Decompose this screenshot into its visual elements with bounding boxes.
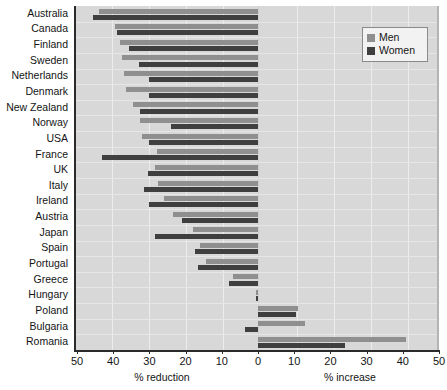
bar-women [149, 93, 258, 98]
bar-men [193, 227, 258, 232]
y-axis-label: Greece [34, 274, 68, 285]
bar-men [258, 337, 406, 342]
bar-men [126, 87, 258, 92]
x-tick-label: 50 [64, 355, 90, 367]
bar-women [139, 62, 258, 67]
x-tick-mark [330, 350, 331, 354]
x-tick-mark [403, 350, 404, 354]
x-tick-label: 20 [317, 355, 343, 367]
bar-women [149, 77, 258, 82]
x-tick-mark [77, 350, 78, 354]
bar-women [229, 281, 258, 286]
bar-women [148, 171, 258, 176]
bar-men [173, 212, 258, 217]
y-axis-label: Poland [35, 305, 68, 316]
y-axis-label: Norway [32, 117, 68, 128]
x-tick-label: 10 [281, 355, 307, 367]
y-axis-label: Canada [31, 23, 68, 34]
bar-women [155, 234, 258, 239]
x-tick-mark [222, 350, 223, 354]
gridline-row [76, 22, 437, 23]
x-axis-line [74, 350, 439, 352]
y-axis-label: Hungary [28, 289, 68, 300]
bar-men [115, 24, 258, 29]
y-axis-line [74, 6, 76, 352]
bar-women [198, 265, 258, 270]
bar-men [120, 40, 258, 45]
bar-men [158, 181, 258, 186]
y-axis-label: UK [53, 164, 68, 175]
x-tick-label: 50 [426, 355, 447, 367]
gridline-row [76, 319, 437, 320]
x-tick-label: 10 [209, 355, 235, 367]
bar-men [140, 118, 258, 123]
legend-item-men: Men [367, 31, 423, 44]
legend-swatch-women [367, 47, 375, 55]
y-axis-label: Austria [35, 211, 68, 222]
x-axis-title-increase: % increase [290, 371, 410, 383]
bar-women [102, 155, 258, 160]
bar-women [149, 140, 258, 145]
bar-women [182, 218, 258, 223]
gridline-row [76, 334, 437, 335]
bar-men [258, 306, 298, 311]
gridline-row [76, 147, 437, 148]
bar-women [144, 187, 258, 192]
gridline-row [76, 115, 437, 116]
gridline-row [76, 69, 437, 70]
bar-women [117, 30, 258, 35]
bar-women [258, 312, 296, 317]
x-tick-label: 0 [245, 355, 271, 367]
gridline-row [76, 225, 437, 226]
legend: Men Women [362, 27, 428, 62]
bar-men [164, 196, 258, 201]
gridline-row [76, 241, 437, 242]
y-axis-label: Australia [27, 8, 68, 19]
bar-women [129, 46, 258, 51]
y-axis-label: Sweden [30, 55, 68, 66]
y-axis-label: Bulgaria [29, 321, 68, 332]
bar-women [140, 109, 258, 114]
y-axis-label: France [35, 149, 68, 160]
x-tick-label: 40 [100, 355, 126, 367]
gridline-row [76, 84, 437, 85]
legend-item-women: Women [367, 44, 423, 57]
y-axis-label: Portugal [29, 258, 68, 269]
gridline-row [76, 272, 437, 273]
bar-men [99, 9, 258, 14]
bar-men [122, 55, 258, 60]
y-axis-label: Japan [39, 227, 68, 238]
bar-women [195, 249, 258, 254]
x-tick-mark [258, 350, 259, 354]
y-axis-label: Finland [34, 39, 68, 50]
y-axis-label: Spain [41, 242, 68, 253]
bar-women [245, 327, 258, 332]
y-axis-label: USA [46, 133, 68, 144]
bar-men [256, 290, 258, 295]
gridline-row [76, 162, 437, 163]
x-tick-label: 40 [390, 355, 416, 367]
bar-women [149, 202, 258, 207]
y-axis-label: Romania [26, 336, 68, 347]
bar-chart: AustraliaCanadaFinlandSwedenNetherlandsD… [0, 0, 447, 390]
legend-label-women: Women [379, 45, 415, 56]
legend-label-men: Men [379, 32, 399, 43]
bar-women [256, 296, 258, 301]
gridline-row [76, 303, 437, 304]
gridline-row [76, 178, 437, 179]
bar-men [258, 321, 305, 326]
gridline-row [76, 131, 437, 132]
y-axis-label: Netherlands [11, 70, 68, 81]
gridline-row [76, 100, 437, 101]
bar-men [157, 149, 258, 154]
gridline-row [76, 287, 437, 288]
x-tick-label: 20 [173, 355, 199, 367]
x-tick-label: 30 [136, 355, 162, 367]
gridline-row [76, 194, 437, 195]
x-axis-title-reduction: % reduction [102, 371, 222, 383]
bar-men [133, 102, 258, 107]
bar-men [233, 274, 258, 279]
x-tick-label: 30 [354, 355, 380, 367]
bar-men [155, 165, 258, 170]
x-tick-mark [149, 350, 150, 354]
